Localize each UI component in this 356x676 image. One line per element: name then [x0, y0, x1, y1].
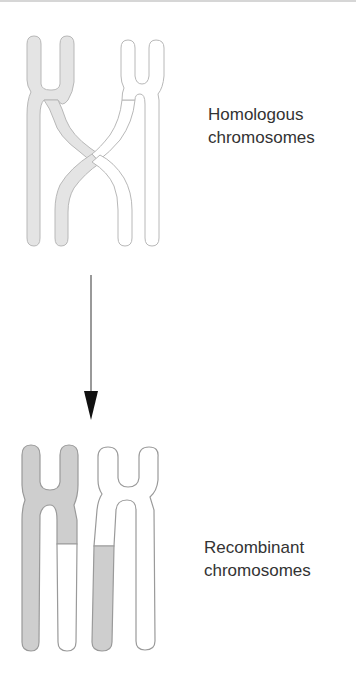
recombinant-label-line2: chromosomes — [204, 559, 311, 582]
homologous-label-line1: Homologous — [208, 103, 315, 126]
homologous-label-line2: chromosomes — [208, 126, 315, 149]
white-chromatid-lower-cross — [92, 155, 132, 246]
recombinant-chromosomes — [22, 445, 158, 651]
down-arrow-icon — [84, 275, 98, 420]
gray-chromatid-lower-cross — [55, 154, 100, 246]
gray-recombinant-white-segment — [57, 544, 77, 651]
white-chromatid-cross-upper — [92, 100, 135, 161]
homologous-chromosomes — [27, 36, 164, 246]
homologous-chromosomes-label: Homologous chromosomes — [208, 103, 315, 149]
recombinant-chromosomes-label: Recombinant chromosomes — [204, 536, 311, 582]
recombinant-label-line1: Recombinant — [204, 536, 311, 559]
gray-chromatid-cross-upper — [44, 100, 100, 162]
white-recombinant-gray-segment — [92, 546, 114, 651]
